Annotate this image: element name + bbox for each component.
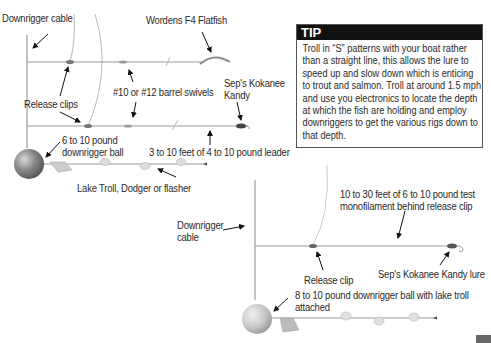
label-bottom-ball-line2: attached [295, 301, 330, 313]
label-kokanee-kandy-line2: Kandy [224, 89, 250, 101]
label-bottom-cable-line1: Downrigger [177, 219, 224, 231]
tip-title: TIP [297, 25, 482, 40]
label-flatfish-lure: Wordens F4 Flatfish [146, 14, 227, 26]
label-leader: 3 to 10 feet of 4 to 10 pound leader [149, 146, 290, 158]
label-release-clips: Release clips [24, 98, 78, 110]
label-mono-line2: monofilament behind release clip [340, 200, 472, 212]
label-barrel-swivels: #10 or #12 barrel swivels [113, 86, 214, 98]
label-release-clip: Release clip [304, 274, 353, 286]
label-mono-line1: 10 to 30 feet of 6 to 10 pound test [340, 188, 475, 200]
label-bottom-cable-line2: cable [177, 231, 199, 243]
label-bottom-ball-line1: 8 to 10 pound downrigger ball with lake … [295, 289, 469, 301]
tip-box: TIP Troll in “S” patterns with your boat… [296, 24, 483, 148]
label-kokanee-kandy-lure: Sep's Kokanee Kandy lure [378, 268, 485, 280]
label-lake-troll: Lake Troll, Dodger or flasher [77, 182, 191, 194]
tip-body: Troll in “S” patterns with your boat rat… [297, 40, 487, 147]
label-kokanee-kandy-line1: Sep's Kokanee [224, 77, 285, 89]
label-ball-line2: downrigger ball [62, 146, 123, 158]
label-ball-line1: 6 to 10 pound [62, 134, 117, 146]
page-corner-mark [476, 335, 491, 343]
label-downrigger-cable: Downrigger cable [2, 12, 73, 24]
